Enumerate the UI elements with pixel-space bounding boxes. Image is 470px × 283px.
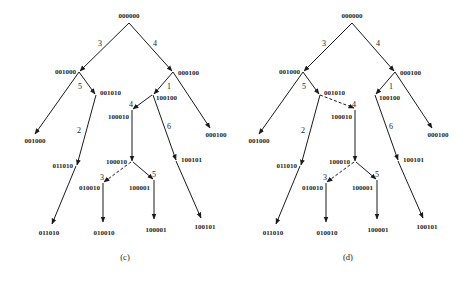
node-label: 000100 — [400, 69, 422, 77]
node-label: 010010 — [302, 184, 324, 192]
edge-weight: 1 — [389, 82, 393, 91]
panel-c: 000000 001000 000100 001010 100100 10001… — [25, 12, 228, 262]
node-label: 000100 — [428, 131, 450, 139]
edge-weight: 6 — [167, 122, 171, 131]
edge-100100-100010 — [133, 95, 152, 109]
node-label: 011010 — [39, 229, 60, 237]
edge-weight: 3 — [98, 39, 102, 48]
edge-weight: 3 — [323, 173, 327, 182]
edge-weight: 6 — [389, 122, 393, 131]
node-label: 100101 — [417, 223, 439, 231]
edge-100101-leaf — [398, 161, 423, 218]
edge-100100-100101 — [153, 95, 176, 160]
edge-001000-leaf — [35, 72, 79, 134]
node-label: 001000 — [249, 137, 271, 145]
node-label: 100100 — [379, 94, 401, 102]
node-label: 000100 — [206, 131, 228, 139]
node-label: 100001 — [146, 226, 168, 234]
edge-weight: 4 — [376, 39, 380, 48]
node-label: 001010 — [100, 89, 122, 97]
tree-diagram-figure: 000000 001000 000100 001010 100100 10001… — [0, 0, 470, 283]
edge-011010-leaf — [52, 166, 76, 224]
edge-weight: 1 — [167, 82, 171, 91]
node-label: 100100 — [156, 94, 178, 102]
edge-100010-100001 — [133, 162, 153, 179]
edge-000100-leaf — [173, 72, 210, 128]
edge-root-000100 — [129, 23, 172, 71]
node-label: 010010 — [317, 229, 339, 237]
edge-weight: 2 — [77, 126, 81, 135]
edge-root-001000 — [304, 23, 352, 71]
edge-weight: 4 — [129, 100, 133, 109]
node-label: 001000 — [55, 68, 77, 76]
edge-weight: 3 — [100, 173, 104, 182]
edge-100010-100001 — [356, 162, 376, 179]
node-label: 011010 — [263, 229, 284, 237]
panel-caption: (d) — [343, 252, 353, 262]
node-label: 011010 — [276, 162, 297, 170]
node-label: 010010 — [79, 184, 101, 192]
node-label: 001000 — [279, 68, 301, 76]
edge-000100-leaf — [395, 72, 432, 128]
panel-d: 000000 001000 000100 001010 100100 10001… — [249, 12, 450, 262]
node-label: 000100 — [178, 69, 200, 77]
node-label: 100010 — [108, 113, 130, 121]
edge-011010-leaf — [276, 166, 300, 224]
panel-caption: (c) — [120, 252, 130, 262]
edge-weight: 4 — [352, 100, 356, 109]
node-label: 100001 — [352, 184, 374, 192]
node-label: 100001 — [129, 184, 151, 192]
node-label: 001000 — [25, 137, 47, 145]
node-label: 100101 — [195, 223, 217, 231]
edge-weight: 5 — [78, 82, 82, 91]
edge-001000-leaf — [259, 72, 303, 134]
edge-root-001000 — [80, 23, 129, 71]
node-label: 000000 — [342, 12, 364, 20]
edge-weight: 2 — [301, 126, 305, 135]
node-label: 100010 — [329, 158, 351, 166]
edge-weight: 3 — [322, 39, 326, 48]
edge-100101-leaf — [176, 161, 201, 218]
edge-100100-100101 — [375, 95, 398, 160]
node-label: 010010 — [94, 229, 116, 237]
edge-weight: 5 — [375, 170, 379, 179]
edge-root-000100 — [352, 23, 394, 71]
node-label: 100010 — [331, 113, 353, 121]
edge-weight: 5 — [152, 170, 156, 179]
node-label: 000000 — [119, 12, 141, 20]
node-label: 100001 — [368, 226, 390, 234]
node-label: 011010 — [52, 162, 73, 170]
node-label: 001010 — [324, 89, 346, 97]
node-label: 100101 — [181, 156, 203, 164]
node-label: 100101 — [403, 156, 425, 164]
node-label: 100010 — [106, 158, 128, 166]
edge-weight: 5 — [302, 82, 306, 91]
edge-weight: 4 — [153, 39, 157, 48]
